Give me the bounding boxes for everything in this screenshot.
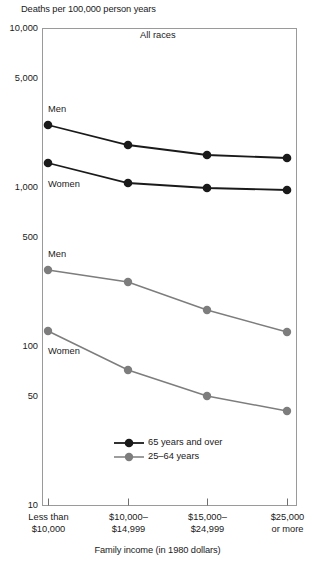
legend-swatch-65-and-over [114, 439, 144, 448]
series-women-25-64 [44, 327, 291, 415]
data-point [124, 278, 132, 286]
data-point [124, 366, 132, 374]
x-tick-line1: $25,000 [239, 512, 315, 524]
data-point [283, 328, 291, 336]
series-men-25-64 [44, 266, 291, 336]
legend-swatch-25-64 [114, 453, 144, 461]
series-women-65-and-over [44, 159, 292, 195]
x-axis-label: Family income (in 1980 dollars) [0, 545, 315, 555]
data-point [44, 266, 52, 274]
data-point [44, 327, 52, 335]
plot-frame [43, 29, 297, 506]
data-point [124, 179, 133, 188]
series-men-65-and-over [44, 121, 292, 163]
data-point [283, 186, 292, 195]
x-axis-ticks [49, 499, 288, 506]
data-point [203, 151, 212, 160]
data-point [44, 159, 53, 168]
x-tick-label-25000-or-more: $25,000 or more [239, 512, 315, 535]
data-point [203, 392, 211, 400]
data-point [283, 407, 291, 415]
data-point [203, 306, 211, 314]
x-tick-line2: or more [239, 524, 315, 536]
chart-figure: Deaths per 100,000 person years 10,000 5… [0, 0, 315, 572]
data-point [124, 141, 133, 150]
data-point [203, 184, 212, 193]
data-point [44, 121, 53, 130]
chart-canvas [0, 0, 315, 572]
data-point [283, 154, 292, 163]
